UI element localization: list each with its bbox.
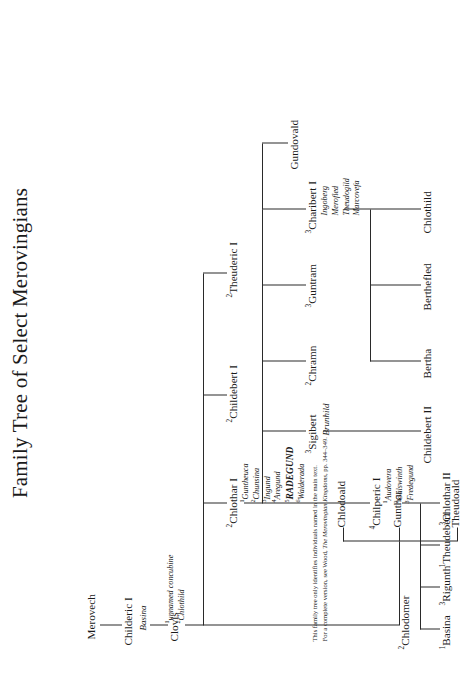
page-title: Family Tree of Select Merovingians — [8, 0, 33, 685]
connector-gunthar — [399, 527, 400, 541]
connector-bus-sigibert — [262, 430, 306, 431]
node-merovech: Merovech — [85, 594, 98, 639]
connector-chlodomer-children-stem — [399, 541, 400, 625]
node-gundovald: Gundovald — [288, 119, 301, 169]
connector-bus-guntram — [262, 284, 306, 285]
node-childebert-ii: Childebert II — [421, 406, 434, 463]
spouse-item: 1Audovera — [384, 464, 395, 503]
node-chlodomer: 2Chlodomer — [399, 595, 412, 649]
connector-theudoald — [457, 527, 458, 541]
connector-bus-chramn — [262, 360, 306, 361]
spouse-list-chilperic-i: 1Audovera 2Galswinth 3Fredegund — [384, 464, 416, 503]
spouse-item: 3Ingund — [263, 446, 274, 502]
connector-bus-theudebert — [420, 544, 440, 545]
connector-bus-chlothar-ii — [420, 502, 440, 503]
connector-charibert-down — [344, 208, 370, 209]
spouse-basina: Basina — [138, 605, 148, 630]
connector-bus-chlothar — [203, 502, 227, 503]
node-basina: 1Basina — [440, 615, 453, 649]
sibling-bus-chilperic-children — [420, 503, 421, 629]
connector-chlodoald — [343, 527, 344, 541]
sibling-bus-extension-gundovald — [262, 143, 263, 209]
connector-bus-chlothild — [370, 208, 421, 209]
node-charibert-i: 3Charibert I — [306, 181, 319, 233]
connector-bus-chlodomer — [203, 624, 399, 625]
spouse-item: Merofled — [331, 178, 342, 215]
spouse-item: 2Galswinth — [395, 464, 406, 503]
connector-childeric-clovis — [150, 624, 168, 625]
sibling-bus-clovis-children — [203, 273, 204, 625]
spouse-list-chlothar-i: 1Guntheuca 2Chunsina 3Ingund 4Aregund 5R… — [241, 446, 308, 502]
spouse-item: 5RADEGUND — [284, 446, 297, 502]
connector-bus-rigunth — [420, 586, 440, 587]
sibling-bus-chlothar-children — [262, 209, 263, 503]
node-childebert-i: 2Childebert I — [227, 365, 240, 422]
spouse-list-clovis: 1unnamed concubine 2Chlothild — [166, 554, 188, 623]
node-guntram: 3Guntram — [306, 264, 319, 307]
connector-bus-gundovald — [262, 142, 288, 143]
connector-merovech-childeric — [100, 624, 122, 625]
spouse-item: 1Guntheuca — [241, 446, 252, 502]
node-chlothild: Chlothild — [421, 191, 434, 233]
connector-bus-bertha — [370, 360, 421, 361]
connector-bus-childebert — [203, 394, 227, 395]
node-theuderic-i: 2Theuderic I — [227, 241, 240, 297]
spouse-item: Ingoberg — [320, 178, 331, 215]
connector-bus-basina — [420, 628, 440, 629]
spouse-item: 3Fredegund — [406, 464, 417, 503]
connector-clovis-down — [185, 624, 203, 625]
footnote-line-2: For a complete version, see Wood, The Me… — [320, 437, 330, 641]
spouse-item: 2Chlothild — [177, 554, 188, 623]
footnote-line-1: This family tree only identifies individ… — [310, 437, 320, 641]
node-berthefled: Berthefled — [421, 263, 434, 310]
spouse-item: 1unnamed concubine — [166, 554, 177, 623]
node-chlodoald: Chlodoald — [335, 480, 348, 527]
node-childeric-i: Childeric I — [122, 597, 135, 645]
node-bertha: Bertha — [421, 348, 434, 378]
node-chlothar-ii: 3Chlothar II — [440, 472, 453, 525]
connector-bus-berthefled — [370, 284, 421, 285]
connector-bus-theuderic — [203, 272, 227, 273]
connector-chlothar-down — [244, 502, 262, 503]
connector-bus-charibert — [262, 208, 306, 209]
spouse-item: 4Aregund — [273, 446, 284, 502]
connector-chilperic-down — [402, 502, 420, 503]
connector-sigibert-childebert-ii — [323, 430, 421, 431]
footnote: This family tree only identifies individ… — [310, 437, 330, 641]
node-chramn: 2Chramn — [306, 345, 319, 385]
spouse-item: 6Walderada — [297, 446, 308, 502]
node-rigunth: 3Rigunth — [440, 565, 453, 605]
